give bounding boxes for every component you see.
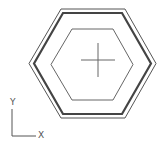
ucs-x-label: X <box>38 131 44 140</box>
drawing-canvas[interactable] <box>0 0 163 147</box>
center-crosshair <box>81 43 115 77</box>
inner-hexagon[interactable] <box>51 29 133 100</box>
ucs-icon <box>12 109 36 136</box>
ucs-y-label: Y <box>10 98 16 107</box>
outer-hexagon[interactable] <box>29 9 156 118</box>
